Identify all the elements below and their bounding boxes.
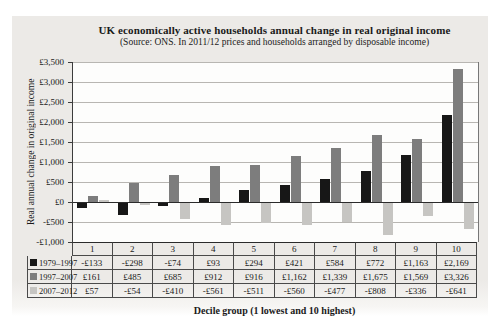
table-header-decile-6: 6 bbox=[275, 242, 316, 256]
table-value-2007–2012-decile-1: £57 bbox=[72, 284, 113, 298]
table-value-2007–2012-decile-7: -£477 bbox=[315, 284, 356, 298]
bar-1997–2007-decile-6 bbox=[291, 156, 301, 202]
table-value-2007–2012-decile-8: -£808 bbox=[356, 284, 397, 298]
y-tick-label: £1,500 bbox=[18, 137, 64, 148]
y-tick-label: £3,000 bbox=[18, 77, 64, 88]
bar-1997–2007-decile-9 bbox=[412, 139, 422, 202]
bar-group-decile-10 bbox=[438, 62, 479, 242]
bar-1979–1997-decile-7 bbox=[320, 179, 330, 202]
table-value-1997–2007-decile-5: £916 bbox=[234, 270, 275, 284]
y-tick-label: -£500 bbox=[18, 217, 64, 228]
table-value-2007–2012-decile-9: -£336 bbox=[396, 284, 437, 298]
bar-2007–2012-decile-8 bbox=[383, 203, 393, 235]
legend-swatch-1979–1997 bbox=[30, 259, 37, 266]
y-tick-label: -£1,000 bbox=[18, 237, 64, 248]
bar-group-decile-3 bbox=[154, 62, 195, 242]
table-value-2007–2012-decile-5: -£511 bbox=[234, 284, 275, 298]
legend-cell-2007–2012: 2007–2012 bbox=[27, 284, 72, 298]
bar-1979–1997-decile-10 bbox=[442, 115, 452, 202]
bar-1979–1997-decile-9 bbox=[401, 155, 411, 202]
bar-1997–2007-decile-7 bbox=[331, 148, 341, 202]
y-tick-mark bbox=[68, 202, 72, 203]
bar-2007–2012-decile-7 bbox=[342, 203, 352, 222]
y-tick-mark bbox=[68, 142, 72, 143]
chart-title: UK economically active households annual… bbox=[72, 24, 477, 36]
bar-1997–2007-decile-4 bbox=[210, 166, 220, 202]
table-header-decile-8: 8 bbox=[356, 242, 397, 256]
bar-1997–2007-decile-5 bbox=[250, 165, 260, 202]
table-value-1997–2007-decile-10: £3,326 bbox=[437, 270, 478, 284]
y-tick-label: £1,000 bbox=[18, 157, 64, 168]
table-value-1979–1997-decile-10: £2,169 bbox=[437, 256, 478, 270]
table-value-1997–2007-decile-6: £1,162 bbox=[275, 270, 316, 284]
bar-1997–2007-decile-3 bbox=[169, 175, 179, 202]
bar-1979–1997-decile-6 bbox=[280, 185, 290, 202]
bar-2007–2012-decile-9 bbox=[423, 203, 433, 216]
page: UK economically active households annual… bbox=[0, 0, 496, 336]
table-value-1979–1997-decile-2: -£298 bbox=[113, 256, 154, 270]
bar-2007–2012-decile-10 bbox=[464, 203, 474, 229]
table-value-1979–1997-decile-4: £93 bbox=[194, 256, 235, 270]
bar-group-decile-8 bbox=[357, 62, 398, 242]
y-axis-title: Real annual change in original income bbox=[24, 62, 38, 242]
bar-1997–2007-decile-10 bbox=[453, 69, 463, 202]
x-axis-title: Decile group (1 lowest and 10 highest) bbox=[72, 305, 477, 316]
legend-cell-1997–2007: 1997–2007 bbox=[27, 270, 72, 284]
y-tick-mark bbox=[68, 162, 72, 163]
bar-1979–1997-decile-2 bbox=[118, 203, 128, 215]
y-tick-mark bbox=[68, 102, 72, 103]
table-header-decile-4: 4 bbox=[194, 242, 235, 256]
bar-2007–2012-decile-3 bbox=[180, 203, 190, 219]
table-header-decile-2: 2 bbox=[113, 242, 154, 256]
bar-1997–2007-decile-8 bbox=[372, 135, 382, 202]
bar-group-decile-7 bbox=[316, 62, 357, 242]
y-tick-mark bbox=[68, 242, 72, 243]
y-tick-mark bbox=[68, 62, 72, 63]
table-value-1997–2007-decile-4: £912 bbox=[194, 270, 235, 284]
bar-2007–2012-decile-4 bbox=[221, 203, 231, 225]
table-header-decile-10: 10 bbox=[437, 242, 478, 256]
table-value-1997–2007-decile-3: £685 bbox=[153, 270, 194, 284]
bar-1979–1997-decile-3 bbox=[158, 203, 168, 206]
bar-group-decile-6 bbox=[276, 62, 317, 242]
table-value-1979–1997-decile-5: £294 bbox=[234, 256, 275, 270]
y-tick-label: £500 bbox=[18, 177, 64, 188]
table-value-1979–1997-decile-7: £584 bbox=[315, 256, 356, 270]
bar-group-decile-9 bbox=[397, 62, 438, 242]
plot-area bbox=[72, 62, 479, 242]
table-value-1979–1997-decile-6: £421 bbox=[275, 256, 316, 270]
y-tick-label: £2,500 bbox=[18, 97, 64, 108]
figure: UK economically active households annual… bbox=[12, 16, 488, 316]
table-header-decile-9: 9 bbox=[396, 242, 437, 256]
table-value-2007–2012-decile-2: -£54 bbox=[113, 284, 154, 298]
bar-2007–2012-decile-6 bbox=[302, 203, 312, 225]
legend-swatch-2007–2012 bbox=[30, 287, 37, 294]
legend-swatch-1997–2007 bbox=[30, 273, 37, 280]
bar-1979–1997-decile-5 bbox=[239, 190, 249, 202]
table-value-2007–2012-decile-3: -£410 bbox=[153, 284, 194, 298]
bar-1997–2007-decile-2 bbox=[129, 183, 139, 202]
y-tick-label: £2,000 bbox=[18, 117, 64, 128]
table-value-1979–1997-decile-9: £1,163 bbox=[396, 256, 437, 270]
table-value-1997–2007-decile-2: £485 bbox=[113, 270, 154, 284]
table-header-decile-7: 7 bbox=[315, 242, 356, 256]
y-tick-mark bbox=[68, 182, 72, 183]
bar-2007–2012-decile-2 bbox=[140, 203, 150, 205]
table-value-2007–2012-decile-10: -£641 bbox=[437, 284, 478, 298]
table-value-1997–2007-decile-7: £1,339 bbox=[315, 270, 356, 284]
y-tick-label: £0 bbox=[18, 197, 64, 208]
y-tick-mark bbox=[68, 122, 72, 123]
y-tick-label: £3,500 bbox=[18, 57, 64, 68]
table-value-2007–2012-decile-4: -£561 bbox=[194, 284, 235, 298]
bar-group-decile-1 bbox=[73, 62, 114, 242]
table-header-decile-5: 5 bbox=[234, 242, 275, 256]
table-value-1979–1997-decile-1: -£133 bbox=[72, 256, 113, 270]
chart-subtitle: (Source: ONS. In 2011/12 prices and hous… bbox=[72, 37, 477, 47]
table-header-decile-3: 3 bbox=[153, 242, 194, 256]
y-tick-mark bbox=[68, 82, 72, 83]
table-value-2007–2012-decile-6: -£560 bbox=[275, 284, 316, 298]
data-table: 123456789101979–1997-£133-£298-£74£93£29… bbox=[27, 242, 477, 298]
table-value-1997–2007-decile-8: £1,675 bbox=[356, 270, 397, 284]
zero-axis-line bbox=[73, 202, 478, 203]
legend-cell-1979–1997: 1979–1997 bbox=[27, 256, 72, 270]
